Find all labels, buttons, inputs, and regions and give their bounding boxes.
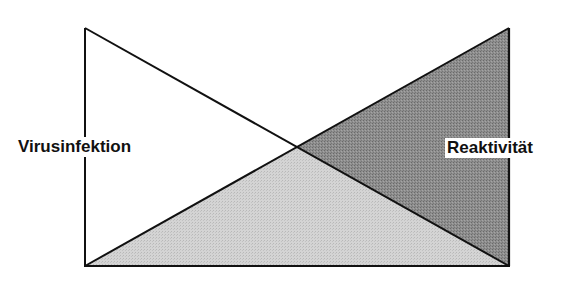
label-reaktivitaet: Reaktivität: [445, 138, 535, 158]
label-virusinfektion: Virusinfektion: [16, 137, 133, 157]
